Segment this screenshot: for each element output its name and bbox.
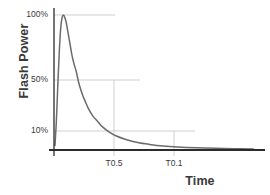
x-tick-label-t05: T0.5: [94, 158, 134, 168]
x-axis-title: Time: [150, 174, 250, 188]
y-tick-label-10: 10%: [6, 125, 48, 135]
flash-power-chart: 100% 50% 10% T0.5 T0.1 Flash Power Time: [0, 0, 270, 195]
flash-power-curve: [55, 15, 253, 149]
x-tick-label-t01: T0.1: [154, 158, 194, 168]
chart-plot-area: [0, 0, 270, 195]
y-axis-title: Flash Power: [17, 16, 31, 106]
